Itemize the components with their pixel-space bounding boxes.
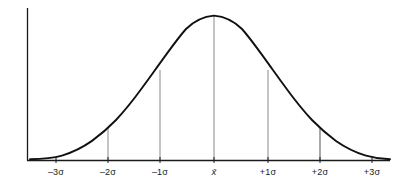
x-tick-label-minus-2-sigma: –2σ xyxy=(100,167,116,177)
x-tick-label-plus-1-sigma: +1σ xyxy=(260,167,276,177)
drop-lines-group xyxy=(108,17,320,160)
x-tick-label-plus-3-sigma: +3σ xyxy=(364,167,380,177)
x-tick-label-minus-3-sigma: –3σ xyxy=(48,167,64,177)
x-tick-label-mean: x̄ xyxy=(212,167,217,177)
x-tick-label-plus-2-sigma: +2σ xyxy=(312,167,328,177)
normal-distribution-figure: –3σ –2σ –1σ x̄ +1σ +2σ +3σ xyxy=(0,0,397,183)
gaussian-curve-path xyxy=(30,16,390,160)
x-tick-label-minus-1-sigma: –1σ xyxy=(152,167,168,177)
bell-curve-plot xyxy=(0,0,397,183)
